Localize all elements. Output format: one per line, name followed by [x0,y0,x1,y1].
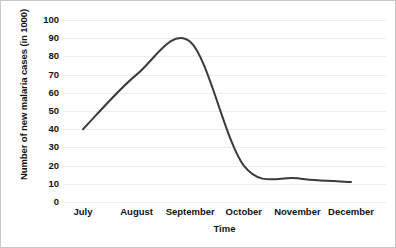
y-tick-label: 80 [25,52,59,62]
y-tick-label: 30 [25,143,59,153]
y-tick-label: 70 [25,70,59,80]
y-tick-label: 90 [25,33,59,43]
y-tick-label: 60 [25,88,59,98]
x-axis-title: Time [63,223,386,234]
y-tick-label: 20 [25,161,59,171]
gridline [63,202,386,203]
chart-figure: Number of new malaria cases (in 1000) 01… [0,0,396,248]
x-axis-tick-labels: JulyAugustSeptemberOctoberNovemberDecemb… [1,206,396,222]
x-tick-label: August [120,206,153,217]
x-tick-label: July [73,206,92,217]
series-path-new-malaria-cases [83,38,351,182]
x-tick-label: October [226,206,262,217]
x-tick-label: September [166,206,215,217]
y-tick-label: 10 [25,179,59,189]
plot-area [63,20,386,202]
y-tick-label: 50 [25,106,59,116]
y-tick-label: 40 [25,124,59,134]
x-tick-label: November [274,206,320,217]
x-tick-label: December [328,206,374,217]
y-tick-label: 100 [25,15,59,25]
line-series [63,20,386,202]
